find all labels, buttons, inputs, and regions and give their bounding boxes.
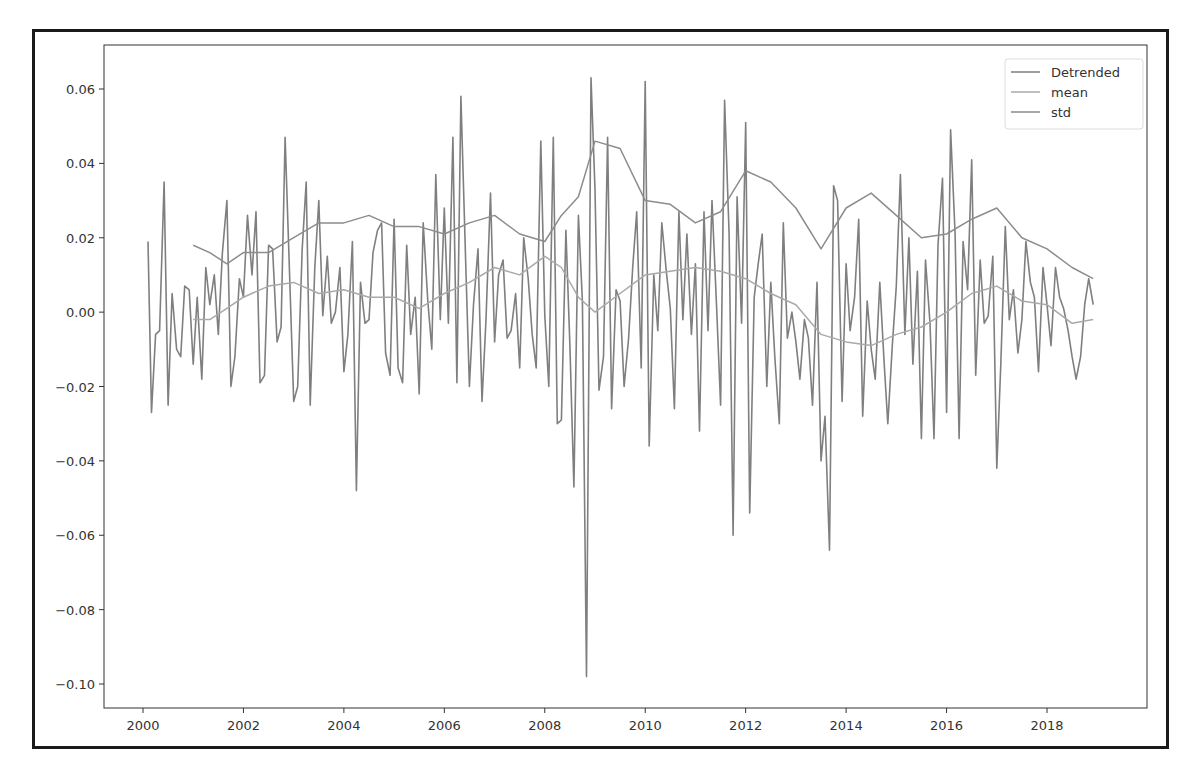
x-tick-label: 2012 (729, 718, 762, 733)
legend-label-std: std (1051, 105, 1071, 120)
y-tick-label: 0.04 (66, 156, 95, 171)
x-tick-label: 2006 (428, 718, 461, 733)
x-tick-label: 2002 (227, 718, 260, 733)
x-tick-label: 2010 (629, 718, 662, 733)
legend-label-detrended: Detrended (1051, 65, 1120, 80)
x-tick-label: 2004 (327, 718, 360, 733)
x-tick-label: 2000 (126, 718, 159, 733)
y-tick-label: −0.06 (55, 528, 95, 543)
y-tick-label: −0.10 (55, 677, 95, 692)
x-tick-label: 2014 (830, 718, 863, 733)
y-tick-label: 0.00 (66, 305, 95, 320)
y-tick-label: 0.06 (66, 82, 95, 97)
y-tick-label: −0.04 (55, 454, 95, 469)
x-tick-label: 2008 (528, 718, 561, 733)
y-tick-label: 0.02 (66, 231, 95, 246)
x-tick-label: 2016 (930, 718, 963, 733)
line-chart: 2000200220042006200820102012201420162018… (0, 0, 1195, 782)
legend-label-mean: mean (1051, 85, 1088, 100)
y-tick-label: −0.02 (55, 380, 95, 395)
legend: Detrended mean std (1005, 59, 1143, 129)
x-tick-label: 2018 (1030, 718, 1063, 733)
y-tick-label: −0.08 (55, 603, 95, 618)
